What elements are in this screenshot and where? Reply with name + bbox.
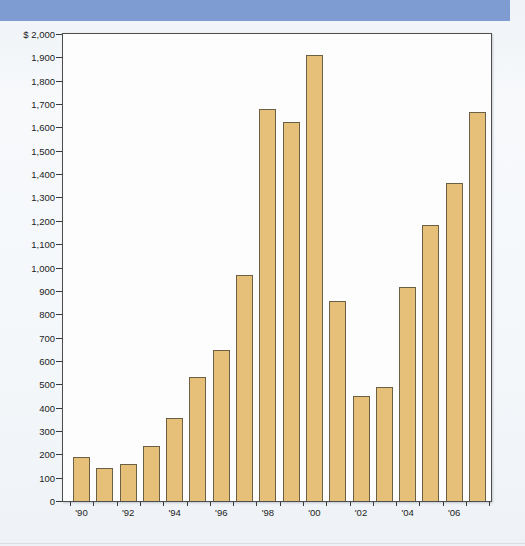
x-tick bbox=[396, 502, 397, 506]
x-tick bbox=[466, 502, 467, 506]
y-tick bbox=[56, 81, 62, 82]
y-tick-label: $ 2,000 bbox=[0, 29, 55, 40]
y-tick-label: 900 bbox=[0, 286, 55, 297]
y-tick-label: 1,600 bbox=[0, 122, 55, 133]
x-tick bbox=[489, 502, 490, 506]
bar-'95 bbox=[189, 377, 206, 501]
x-tick bbox=[256, 502, 257, 506]
x-tick bbox=[373, 502, 374, 506]
x-tick bbox=[117, 502, 118, 506]
x-tick-label: '96 bbox=[208, 507, 234, 518]
bar-'96 bbox=[213, 350, 230, 501]
x-tick bbox=[70, 502, 71, 506]
y-tick-label: 100 bbox=[0, 473, 55, 484]
x-tick-label: '98 bbox=[255, 507, 281, 518]
bar-'94 bbox=[166, 418, 183, 501]
x-tick bbox=[350, 502, 351, 506]
x-tick bbox=[93, 502, 94, 506]
y-tick bbox=[56, 384, 62, 385]
y-tick-label: 800 bbox=[0, 309, 55, 320]
bar-'07 bbox=[469, 112, 486, 501]
y-tick-label: 500 bbox=[0, 379, 55, 390]
bar-'02 bbox=[353, 396, 370, 501]
y-tick bbox=[56, 338, 62, 339]
y-tick-label: 1,200 bbox=[0, 216, 55, 227]
x-tick-label: '94 bbox=[162, 507, 188, 518]
bar-'04 bbox=[399, 287, 416, 501]
y-tick-label: 200 bbox=[0, 449, 55, 460]
y-tick bbox=[56, 268, 62, 269]
y-tick bbox=[56, 478, 62, 479]
y-tick bbox=[56, 431, 62, 432]
x-tick bbox=[280, 502, 281, 506]
x-tick bbox=[443, 502, 444, 506]
bar-'00 bbox=[306, 55, 323, 501]
y-tick bbox=[56, 244, 62, 245]
x-tick bbox=[163, 502, 164, 506]
y-tick-label: 300 bbox=[0, 426, 55, 437]
y-tick-label: 700 bbox=[0, 333, 55, 344]
bar-'92 bbox=[120, 464, 137, 501]
y-tick bbox=[56, 454, 62, 455]
x-tick bbox=[210, 502, 211, 506]
y-tick-label: 600 bbox=[0, 356, 55, 367]
y-tick bbox=[56, 314, 62, 315]
screenshot-root: $ 2,0001,9001,8001,7001,6001,5001,4001,3… bbox=[0, 0, 525, 546]
bar-'98 bbox=[259, 109, 276, 501]
y-tick-label: 1,000 bbox=[0, 263, 55, 274]
x-tick bbox=[187, 502, 188, 506]
x-tick-label: '00 bbox=[301, 507, 327, 518]
bar-'97 bbox=[236, 275, 253, 501]
x-tick bbox=[233, 502, 234, 506]
x-tick-label: '02 bbox=[348, 507, 374, 518]
bar-'05 bbox=[422, 225, 439, 501]
bars-container bbox=[63, 34, 491, 501]
bar-'99 bbox=[283, 122, 300, 501]
y-tick bbox=[56, 361, 62, 362]
y-tick bbox=[56, 57, 62, 58]
x-tick-label: '04 bbox=[395, 507, 421, 518]
y-tick-label: 1,700 bbox=[0, 99, 55, 110]
x-tick bbox=[326, 502, 327, 506]
y-tick bbox=[56, 127, 62, 128]
bottom-divider bbox=[0, 543, 525, 544]
bar-'01 bbox=[329, 301, 346, 501]
x-tick bbox=[303, 502, 304, 506]
x-tick-label: '92 bbox=[115, 507, 141, 518]
y-tick-label: 400 bbox=[0, 403, 55, 414]
y-tick bbox=[56, 501, 62, 502]
y-tick bbox=[56, 291, 62, 292]
bar-'91 bbox=[96, 468, 113, 501]
y-tick-label: 1,500 bbox=[0, 146, 55, 157]
y-tick bbox=[56, 197, 62, 198]
x-tick bbox=[140, 502, 141, 506]
header-bar bbox=[0, 0, 510, 21]
y-tick bbox=[56, 174, 62, 175]
y-tick-label: 1,300 bbox=[0, 192, 55, 203]
y-tick-label: 1,400 bbox=[0, 169, 55, 180]
y-tick bbox=[56, 151, 62, 152]
bar-'93 bbox=[143, 446, 160, 501]
bar-'90 bbox=[73, 457, 90, 501]
y-tick bbox=[56, 221, 62, 222]
y-tick bbox=[56, 34, 62, 35]
y-tick-label: 1,900 bbox=[0, 52, 55, 63]
x-tick bbox=[419, 502, 420, 506]
y-tick bbox=[56, 104, 62, 105]
bar-'06 bbox=[446, 183, 463, 501]
x-tick-label: '06 bbox=[441, 507, 467, 518]
x-tick-label: '90 bbox=[69, 507, 95, 518]
y-tick bbox=[56, 408, 62, 409]
bar-'03 bbox=[376, 387, 393, 501]
y-tick-label: 0 bbox=[0, 496, 55, 507]
y-tick-label: 1,800 bbox=[0, 76, 55, 87]
y-tick-label: 1,100 bbox=[0, 239, 55, 250]
plot-area bbox=[62, 33, 492, 502]
